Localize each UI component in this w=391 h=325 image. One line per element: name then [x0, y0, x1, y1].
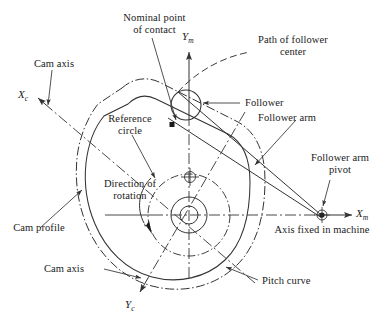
label-cam-axis-top: Cam axis: [18, 58, 90, 70]
follower-roller: [171, 90, 201, 120]
label-reference-circle: Reference circle: [94, 113, 166, 136]
label-follower: Follower: [245, 97, 315, 109]
label-path-of-follower-center: Path of follower center: [234, 34, 352, 57]
leader-reference-circle: [132, 135, 155, 178]
leader-nominal-contact: [152, 38, 176, 120]
leader-follower-arm: [255, 120, 296, 165]
axis-label-xm: Xm: [356, 207, 368, 222]
axis-xc-subscript: c: [25, 94, 28, 103]
label-pitch-curve: Pitch curve: [262, 275, 338, 287]
cam-follower-diagram: Nominal point of contact Cam axis Refere…: [0, 0, 391, 325]
leader-pivot: [323, 180, 330, 206]
label-cam-profile: Cam profile: [2, 222, 76, 234]
axis-label-ym: Ym: [182, 30, 194, 45]
label-axis-fixed-in-machine: Axis fixed in machine: [256, 224, 388, 236]
leader-lines: [40, 38, 330, 280]
axis-yc-subscript: c: [131, 304, 134, 313]
label-cam-axis-bottom: Cam axis: [28, 263, 100, 275]
label-follower-arm: Follower arm: [258, 112, 348, 124]
axis-xm-subscript: m: [363, 213, 368, 222]
pivot-marker: [314, 207, 330, 223]
leader-pitch-curve: [226, 267, 258, 280]
axis-xc-symbol: X: [18, 88, 25, 100]
axis-xm-symbol: X: [356, 207, 363, 219]
axis-label-yc: Yc: [125, 298, 134, 313]
center-mark-icon: [181, 168, 199, 186]
cam-axis-y: [140, 112, 245, 292]
leader-cam-axis-top: [48, 70, 52, 105]
label-direction-of-rotation: Direction of rotation: [90, 178, 170, 201]
axis-label-xc: Xc: [18, 88, 28, 103]
label-follower-arm-pivot: Follower arm pivot: [294, 152, 386, 175]
label-nominal-point-of-contact: Nominal point of contact: [97, 12, 212, 35]
axis-ym-subscript: m: [188, 36, 193, 45]
nominal-contact-point-marker: [170, 122, 175, 127]
